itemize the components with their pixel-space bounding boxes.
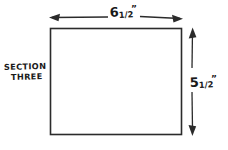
width-dimension-label: 6 1/2 ”: [109, 4, 137, 20]
width-dim-right-arrowhead: [172, 15, 183, 23]
height-dimension-label: 5 1/2 ”: [189, 74, 217, 90]
section-three-dimension-diagram: 6 1/2 ” 5 1/2 ” SECTION THREE: [0, 0, 228, 150]
diagram-canvas: 6 1/2 ” 5 1/2 ” SECTION THREE: [0, 0, 228, 150]
height-dim-inch-mark: ”: [211, 74, 217, 84]
section-label-line-2: THREE: [11, 71, 43, 82]
height-dim-bottom-arrowhead: [189, 125, 197, 136]
width-dim-left-arrowhead: [49, 14, 60, 21]
width-dim-left-segment: [52, 17, 108, 18]
height-dim-lower-segment: [192, 92, 193, 129]
width-dim-inch-mark: ”: [131, 4, 137, 14]
section-label: SECTION THREE: [4, 61, 47, 82]
section-rectangle: [51, 29, 182, 135]
height-dim-top-arrowhead: [189, 28, 197, 39]
